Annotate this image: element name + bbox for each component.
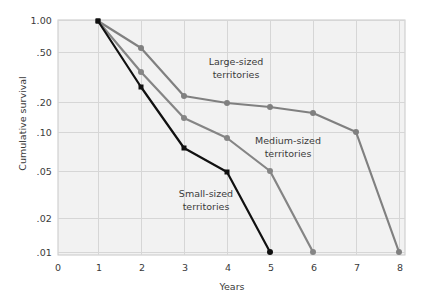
y-tick-label-6: .02 bbox=[12, 213, 52, 224]
y-tick-label-7: .01 bbox=[12, 247, 52, 258]
x-axis-title: Years bbox=[212, 281, 252, 292]
annotation-large-line2: territories bbox=[186, 69, 286, 82]
x-tick-label-0: 0 bbox=[48, 262, 68, 273]
annotation-medium-sized: Medium-sized territories bbox=[238, 135, 338, 160]
x-tick-label-7: 7 bbox=[347, 262, 367, 273]
x-tick-label-3: 3 bbox=[175, 262, 195, 273]
annotation-medium-line1: Medium-sized bbox=[238, 135, 338, 148]
x-tick-label-5: 5 bbox=[261, 262, 281, 273]
y-tick-label-1: 1.00 bbox=[12, 15, 52, 26]
annotation-large-line1: Large-sized bbox=[186, 56, 286, 69]
x-tick-label-4: 4 bbox=[218, 262, 238, 273]
annotation-small-line2: territories bbox=[156, 201, 256, 214]
annotation-small-sized: Small-sized territories bbox=[156, 188, 256, 213]
survival-chart-figure: 1.00 .50 .20 .10 .05 .02 .01 0 1 2 3 4 5… bbox=[0, 0, 429, 304]
x-tick-label-2: 2 bbox=[132, 262, 152, 273]
y-tick-label-2: .50 bbox=[12, 47, 52, 58]
x-tick-label-1: 1 bbox=[89, 262, 109, 273]
annotation-large-sized: Large-sized territories bbox=[186, 56, 286, 81]
y-axis-title: Cumulative survival bbox=[17, 69, 28, 179]
annotation-medium-line2: territories bbox=[238, 148, 338, 161]
x-tick-label-6: 6 bbox=[304, 262, 324, 273]
x-tick-label-8: 8 bbox=[390, 262, 410, 273]
annotation-small-line1: Small-sized bbox=[156, 188, 256, 201]
plot-area-svg bbox=[0, 0, 429, 304]
